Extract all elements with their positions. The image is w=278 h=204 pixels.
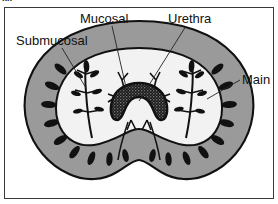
figure-root: 66 bbox=[0, 0, 278, 204]
anatomy-diagram-svg: Submucosal Mucosal Urethra Main bbox=[0, 0, 278, 204]
label-main: Main bbox=[242, 72, 270, 87]
label-mucosal: Mucosal bbox=[80, 11, 129, 26]
label-urethra: Urethra bbox=[168, 11, 212, 26]
label-submucosal: Submucosal bbox=[16, 33, 88, 48]
